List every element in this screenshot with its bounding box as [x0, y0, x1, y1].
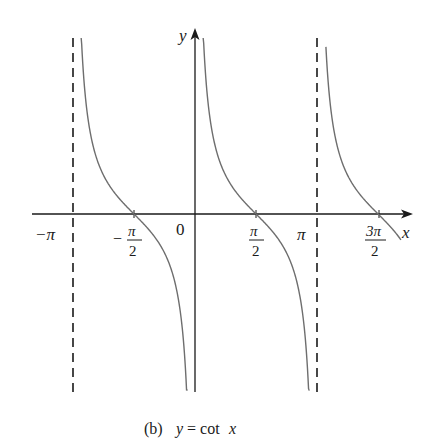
cot-graph: y x −π − π 2 0 π 2 π 3π 2 (b) y = cot x [0, 0, 429, 442]
svg-text:y: y [174, 420, 184, 438]
svg-text:3π: 3π [365, 223, 382, 239]
tick-label-pi-over-2: π 2 [249, 223, 264, 259]
chart-caption: (b) y = cot x [144, 420, 236, 438]
svg-text:2: 2 [371, 243, 379, 259]
svg-text:π: π [250, 223, 258, 239]
tick-label-pi: π [297, 225, 306, 244]
tick-label-minus-pi: −π [35, 225, 55, 244]
svg-text:2: 2 [252, 243, 260, 259]
svg-text:x: x [228, 420, 236, 437]
tick-label-zero: 0 [176, 220, 185, 239]
cot-branch-2 [326, 47, 401, 240]
y-axis-label: y [177, 26, 187, 45]
svg-text:−: − [113, 230, 122, 247]
x-axis-label: x [401, 223, 410, 242]
tick-label-minus-pi-over-2: − π 2 [113, 223, 142, 259]
tick-label-3pi-over-2: 3π 2 [365, 223, 386, 259]
svg-text:(b): (b) [144, 420, 163, 438]
svg-text:π: π [128, 223, 136, 239]
svg-text:2: 2 [129, 243, 137, 259]
svg-text:= cot: = cot [187, 420, 220, 437]
